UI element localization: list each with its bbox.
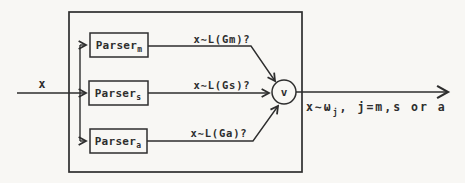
output-subscript: j: [333, 107, 340, 117]
parser-m-name: Parser: [96, 39, 138, 52]
or-node-label: v: [281, 86, 288, 99]
parser-m: Parserm x∼L(Gm)?: [90, 33, 275, 81]
figure-page: x Parserm x∼L(Gm)? Parsers x∼L(Gs)? Pars…: [0, 0, 465, 183]
parser-s: Parsers x∼L(Gs)?: [89, 79, 269, 105]
parser-s-question: x∼L(Gs)?: [194, 79, 251, 91]
or-node: v: [272, 80, 296, 104]
output-prefix: x∼ω: [306, 100, 333, 114]
input-label: x: [39, 77, 46, 91]
parser-decision-diagram: x Parserm x∼L(Gm)? Parsers x∼L(Gs)? Pars…: [0, 0, 465, 183]
parser-a-name: Parser: [95, 135, 137, 148]
output-label: x∼ωj, j=m,s or a: [306, 100, 447, 117]
output-suffix: , j=m,s or a: [340, 100, 447, 114]
parser-a-question: x∼L(Ga)?: [191, 127, 248, 139]
parser-m-to-or-arrow: [148, 46, 275, 81]
parser-s-subscript: s: [136, 93, 141, 102]
parser-s-label: Parsers: [95, 87, 142, 102]
parser-m-label: Parserm: [96, 39, 143, 54]
parser-a-label: Parsera: [95, 135, 142, 150]
parser-a: Parsera x∼L(Ga)?: [90, 106, 278, 153]
parser-a-subscript: a: [136, 141, 141, 150]
parser-m-question: x∼L(Gm)?: [194, 33, 251, 45]
parser-m-subscript: m: [137, 45, 142, 54]
parser-s-name: Parser: [95, 87, 137, 100]
